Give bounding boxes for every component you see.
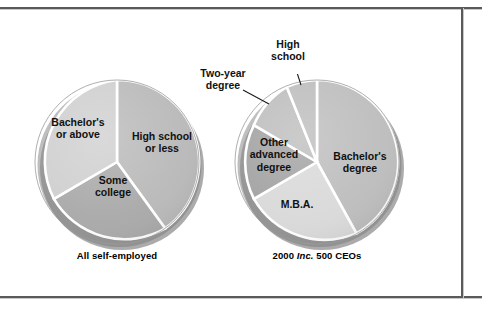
left-chart-caption: All self-employed (24, 250, 210, 261)
frame-right-rule-highlight (463, 8, 464, 298)
callout-high-school: High school (258, 38, 318, 63)
left-pie-chart: High school or less Some college Bachelo… (24, 74, 210, 250)
right-pie-shading (235, 80, 399, 244)
left-pie-shading (35, 80, 199, 244)
figure-frame: High school or less Some college Bachelo… (0, 0, 482, 313)
leader-line-two-year-degree (243, 90, 269, 104)
right-chart-caption: 2000 Inc. 500 CEOs (224, 250, 410, 261)
frame-bottom-rule-highlight (0, 298, 482, 299)
right-caption-suffix: 500 CEOs (314, 250, 362, 261)
left-pie-svg (24, 74, 210, 250)
callout-two-year-degree: Two-year degree (186, 67, 260, 92)
right-caption-italic: Inc. (297, 250, 314, 261)
right-pie-svg (224, 74, 410, 250)
right-caption-prefix: 2000 (273, 250, 297, 261)
frame-top-rule-highlight (0, 9, 482, 10)
right-pie-chart: Bachelor's degree M.B.A. Other advanced … (224, 74, 410, 250)
